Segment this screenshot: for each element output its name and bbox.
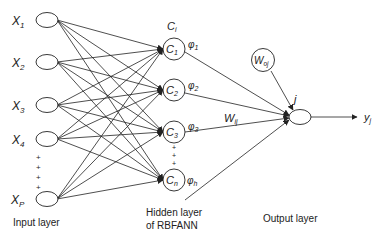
input-label-x3: X3 bbox=[11, 99, 25, 115]
input-node-x2 bbox=[36, 55, 58, 70]
svg-text:+: + bbox=[36, 163, 41, 172]
input-label-x4: X4 bbox=[11, 133, 25, 149]
output-layer-label: Output layer bbox=[263, 213, 318, 224]
center-label: Ci bbox=[167, 20, 177, 33]
hidden-layer: Ci C1 C2 C3 Cn φ1 φ2 φ3 φh + + + Hidden … bbox=[146, 20, 203, 231]
svg-text:+: + bbox=[36, 183, 41, 192]
input-label-xp: XP bbox=[10, 193, 25, 209]
phi-label-2: φ2 bbox=[188, 80, 199, 92]
hidden-layer-label-1: Hidden layer bbox=[146, 207, 203, 218]
svg-text:+: + bbox=[36, 173, 41, 182]
input-label-x2: X2 bbox=[11, 56, 25, 72]
svg-text:+: + bbox=[172, 160, 176, 167]
rbfann-diagram: X1 X2 X3 X4 XP + + + + Input layer Ci C1… bbox=[0, 0, 380, 247]
input-layer-label: Input layer bbox=[13, 217, 60, 228]
phi-label-1: φ1 bbox=[188, 39, 199, 51]
hidden-layer-label-2: of RBFANN bbox=[146, 220, 198, 231]
input-node-x4 bbox=[36, 132, 58, 147]
input-label-x1: X1 bbox=[11, 14, 24, 30]
weight-label-wij: Wij bbox=[224, 112, 238, 126]
weights: Wij Woj bbox=[224, 49, 275, 127]
hidden-output-connections bbox=[185, 52, 357, 200]
svg-text:+: + bbox=[172, 144, 176, 151]
input-node-xp bbox=[36, 192, 58, 207]
svg-text:+: + bbox=[36, 153, 41, 162]
phi-label-h: φh bbox=[187, 175, 198, 187]
input-node-x1 bbox=[36, 13, 58, 28]
hidden-ellipsis: + + + bbox=[172, 144, 176, 167]
output-node-label: j bbox=[292, 93, 297, 105]
svg-text:+: + bbox=[172, 152, 176, 159]
input-layer: X1 X2 X3 X4 XP + + + + Input layer bbox=[10, 13, 60, 229]
input-hidden-connections bbox=[57, 20, 163, 199]
output-layer: j yj Output layer bbox=[263, 93, 372, 224]
input-node-x3 bbox=[36, 98, 58, 113]
input-ellipsis: + + + + bbox=[36, 153, 41, 192]
output-label-yj: yj bbox=[363, 111, 372, 125]
output-node bbox=[289, 110, 311, 125]
phi-label-3: φ3 bbox=[188, 121, 199, 133]
